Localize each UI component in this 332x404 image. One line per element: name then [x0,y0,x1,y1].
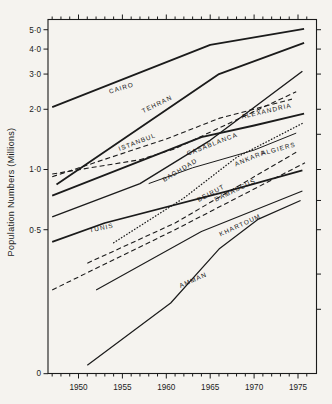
chart-svg: 5·04·03·02·01·00·50195019551960196519701… [0,0,332,404]
series-label-tehran: TEHRAN [141,93,174,114]
series-line-cairo [52,29,304,107]
series-label-tunis: TUNIS [89,222,115,234]
y-tick-label-0: 0 [36,369,41,378]
series-label-algiers: ALGIERS [260,141,296,157]
plot-frame [48,20,317,374]
y-tick-label-0·5: 0·5 [29,226,41,235]
y-tick-label-1·0: 1·0 [29,165,41,174]
y-tick-label-3·0: 3·0 [29,70,41,79]
y-tick-label-2·0: 2·0 [29,105,41,114]
x-tick-label-1955: 1955 [113,383,132,392]
y-tick-label-4·0: 4·0 [29,45,41,54]
population-growth-figure: 5·04·03·02·01·00·50195019551960196519701… [0,0,332,404]
y-tick-label-5·0: 5·0 [29,26,41,35]
y-axis-title: Population Numbers (Millions) [6,128,16,257]
x-tick-label-1965: 1965 [201,383,220,392]
x-tick-label-1970: 1970 [245,383,264,392]
x-tick-label-1950: 1950 [69,383,88,392]
series-label-alexandria: ALEXANDRIA [241,101,293,119]
x-tick-label-1960: 1960 [157,383,176,392]
series-label-baghdad: BAGHDAD [161,157,198,183]
x-tick-label-1975: 1975 [289,383,308,392]
series-label-amman: AMMAN [178,271,208,289]
